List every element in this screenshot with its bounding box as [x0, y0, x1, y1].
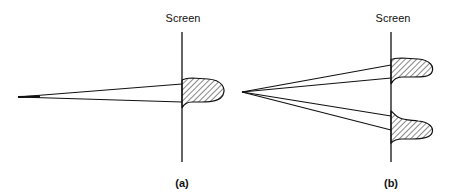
intensity-lobe-b-upper [391, 58, 433, 84]
intensity-lobe-b-lower [391, 111, 432, 143]
screen-label-b: Screen [376, 12, 411, 24]
intensity-lobe-a [182, 78, 224, 108]
panel-b: Screen (b) [242, 12, 433, 189]
diagram-canvas: Screen (a) Screen (b) [0, 0, 451, 196]
beam-b-upper [242, 65, 391, 92]
caption-b: (b) [384, 177, 398, 189]
beam-b-lower [242, 92, 391, 130]
beam-a [18, 84, 182, 102]
panel-a: Screen (a) [18, 12, 224, 189]
screen-label-a: Screen [166, 12, 201, 24]
caption-a: (a) [175, 177, 189, 189]
